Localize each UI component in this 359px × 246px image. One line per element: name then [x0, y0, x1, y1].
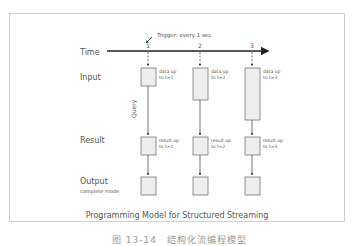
result-note-t3-line1: result up	[263, 138, 283, 143]
output-box-t3	[245, 177, 260, 195]
output-box-t1	[141, 177, 156, 195]
output-box-t2	[193, 177, 208, 195]
input-note-t2-line2: to t=2	[211, 75, 225, 80]
input-box-t1	[141, 68, 156, 86]
output-mode-label: complete mode	[80, 188, 119, 195]
result-box-t2	[193, 137, 208, 155]
input-box-t3	[245, 68, 260, 120]
result-box-t1	[141, 137, 156, 155]
tick-1: 1	[146, 42, 150, 49]
input-box-t2	[193, 68, 208, 100]
column-t1: data up to t=1 result up to t=1	[141, 52, 179, 195]
input-note-t3-line1: data up	[263, 69, 280, 74]
input-note-t3-line2: to t=3	[263, 75, 277, 80]
column-t3: data up to t=3 result up to t=3	[245, 52, 283, 195]
figure-caption: 图 13-14 结构化流编程模型	[0, 233, 359, 246]
row-label-output: Output	[80, 177, 108, 186]
trigger-label: Trigger: every 1 sec	[156, 32, 211, 39]
result-box-t3	[245, 137, 260, 155]
result-note-t2-line2: to t=2	[211, 144, 225, 149]
row-label-input: Input	[80, 73, 101, 82]
result-note-t1-line2: to t=1	[159, 144, 173, 149]
result-note-t1-line1: result up	[159, 138, 179, 143]
tick-3: 3	[250, 42, 254, 49]
tick-2: 2	[198, 42, 202, 49]
input-note-t1-line1: data up	[159, 69, 176, 74]
query-label: Query	[130, 99, 138, 118]
row-label-time: Time	[79, 48, 100, 57]
input-note-t2-line1: data up	[211, 69, 228, 74]
row-label-result: Result	[80, 136, 105, 145]
column-t2: data up to t=2 result up to t=2	[193, 52, 231, 195]
diagram-title: Programming Model for Structured Streami…	[86, 211, 269, 220]
input-note-t1-line2: to t=1	[159, 75, 173, 80]
result-note-t2-line1: result up	[211, 138, 231, 143]
result-note-t3-line2: to t=3	[263, 144, 277, 149]
